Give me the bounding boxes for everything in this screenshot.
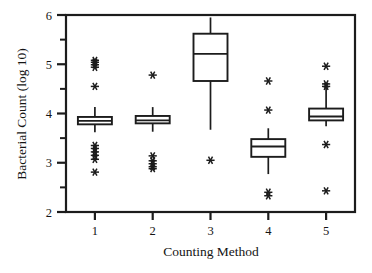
outlier-point: [322, 63, 330, 70]
y-tick-label: 5: [46, 58, 52, 72]
x-axis-tick-labels: 12345: [92, 224, 329, 238]
box-group: [78, 57, 112, 176]
box-body: [309, 109, 343, 121]
box-body: [251, 139, 285, 157]
y-axis-ticks: [57, 15, 66, 212]
outlier-point: [91, 169, 99, 176]
box-body: [194, 34, 228, 81]
y-tick-label: 4: [46, 107, 53, 121]
x-tick-label: 4: [265, 224, 272, 238]
box-series-layer: [78, 17, 343, 199]
y-axis-tick-labels: 23456: [46, 9, 53, 220]
x-axis-title: Counting Method: [163, 244, 259, 259]
outlier-point: [322, 187, 330, 194]
box-group: [136, 72, 170, 173]
x-tick-label: 3: [207, 224, 213, 238]
outlier-point: [206, 157, 214, 164]
boxplot-canvas: 23456 12345 Counting Method Bacterial Co…: [0, 0, 372, 273]
box-group: [194, 17, 228, 163]
outlier-point: [149, 72, 157, 79]
box-group: [309, 63, 343, 195]
y-tick-label: 3: [46, 156, 52, 170]
x-tick-label: 1: [92, 224, 98, 238]
x-tick-label: 5: [323, 224, 329, 238]
boxplot-chart: 23456 12345 Counting Method Bacterial Co…: [0, 0, 372, 273]
outlier-point: [322, 141, 330, 148]
outlier-point: [264, 107, 272, 114]
outlier-point: [91, 83, 99, 90]
y-axis-title: Bacterial Count (log 10): [14, 48, 29, 180]
y-tick-label: 2: [46, 206, 52, 220]
outlier-point: [264, 77, 272, 84]
x-tick-label: 2: [150, 224, 156, 238]
y-tick-label: 6: [46, 9, 52, 23]
outlier-point: [149, 152, 157, 159]
box-group: [251, 77, 285, 199]
x-axis-ticks: [95, 212, 326, 220]
